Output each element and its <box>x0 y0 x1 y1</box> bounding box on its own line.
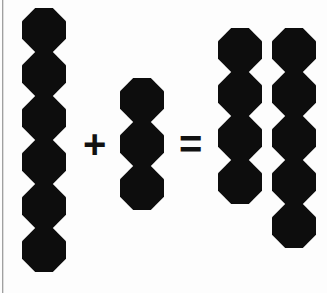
octagon-shape <box>120 122 164 166</box>
plus-operator-icon: + <box>83 124 106 164</box>
right-addend-column-1 <box>120 78 164 210</box>
sum-column-2 <box>272 28 316 248</box>
octagon-shape <box>218 28 262 72</box>
counting-scene: + = <box>0 0 327 293</box>
octagon-shape <box>22 96 66 140</box>
octagon-shape <box>272 116 316 160</box>
octagon-shape <box>272 28 316 72</box>
octagon-shape <box>218 160 262 204</box>
octagon-shape <box>272 72 316 116</box>
sum-group <box>218 28 316 248</box>
octagon-shape <box>272 160 316 204</box>
octagon-shape <box>272 204 316 248</box>
left-addend-group <box>22 8 66 272</box>
octagon-shape <box>120 78 164 122</box>
octagon-shape <box>22 140 66 184</box>
left-edge-scan-line-secondary <box>3 0 4 293</box>
octagon-shape <box>218 72 262 116</box>
octagon-shape <box>218 116 262 160</box>
right-addend-group <box>120 78 164 210</box>
equals-operator-icon: = <box>179 124 202 164</box>
octagon-shape <box>22 184 66 228</box>
left-addend-column-1 <box>22 8 66 272</box>
octagon-shape <box>22 228 66 272</box>
sum-column-1 <box>218 28 262 204</box>
octagon-shape <box>22 52 66 96</box>
octagon-shape <box>22 8 66 52</box>
octagon-shape <box>120 166 164 210</box>
